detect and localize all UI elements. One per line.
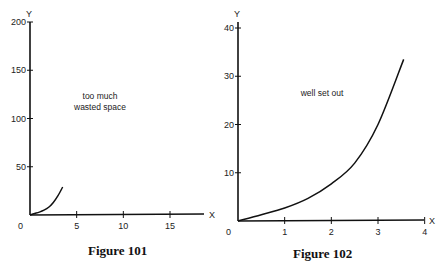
- charts-canvas: XY05101550100150200too muchwasted space …: [0, 0, 443, 273]
- origin-label: 0: [18, 221, 23, 231]
- data-curve: [30, 187, 63, 215]
- x-tick-label: 10: [118, 221, 128, 231]
- y-tick-label: 20: [224, 120, 234, 130]
- figure-102-caption: Figure 102: [293, 246, 352, 262]
- y-tick-label: 150: [11, 65, 26, 75]
- y-axis-label: Y: [26, 9, 32, 19]
- y-tick-label: 50: [16, 162, 26, 172]
- figure-101-caption: Figure 101: [88, 243, 147, 259]
- y-tick-label: 30: [224, 71, 234, 81]
- x-tick-label: 5: [74, 221, 79, 231]
- chart-annotation: wasted space: [73, 102, 126, 112]
- x-tick-label: 1: [282, 227, 287, 237]
- x-axis-label: X: [209, 210, 215, 220]
- y-tick-label: 100: [11, 114, 26, 124]
- x-tick-label: 15: [165, 221, 175, 231]
- x-tick-label: 4: [422, 227, 427, 237]
- x-axis-label: X: [429, 216, 435, 226]
- y-axis-label: Y: [234, 9, 240, 19]
- figure-101-plot: XY05101550100150200too muchwasted space: [11, 9, 215, 231]
- x-tick-label: 3: [375, 227, 380, 237]
- data-curve: [238, 59, 404, 221]
- y-tick-label: 10: [224, 168, 234, 178]
- figure-102-plot: XY0123410203040well set out: [224, 9, 435, 237]
- y-tick-label: 40: [224, 23, 234, 33]
- y-tick-label: 200: [11, 17, 26, 27]
- x-axis: [30, 214, 204, 215]
- x-tick-label: 2: [329, 227, 334, 237]
- chart-annotation: too much: [83, 91, 118, 101]
- origin-label: 0: [226, 227, 231, 237]
- chart-annotation: well set out: [300, 88, 344, 98]
